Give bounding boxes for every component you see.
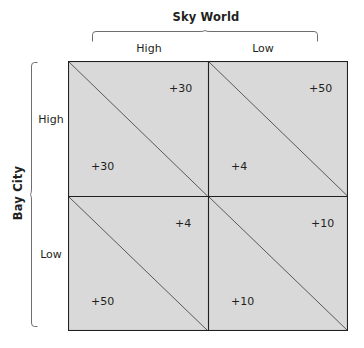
column-strategy-label-low: Low (206, 42, 320, 56)
row-strategy-label-high: High (36, 113, 66, 127)
column-player-title: Sky World (92, 10, 320, 24)
payoff-high-high-column: +30 (169, 82, 192, 95)
payoff-low-low-row: +10 (231, 295, 254, 308)
payoff-high-low-column: +50 (309, 82, 332, 95)
row-player-title: Bay City (11, 148, 25, 238)
payoff-low-low-column: +10 (311, 217, 334, 230)
row-brace (26, 58, 38, 334)
column-brace (88, 30, 322, 42)
payoff-low-high-column: +4 (175, 217, 191, 230)
payoff-matrix-figure: Sky World High Low Bay City High Low +30 (0, 0, 364, 348)
payoff-high-low-row: +4 (231, 160, 247, 173)
row-strategy-label-low: Low (36, 248, 66, 262)
matrix-body: +30 +30 +50 +4 +4 +50 +10 +10 (68, 61, 348, 331)
column-strategy-label-high: High (92, 42, 206, 56)
payoff-low-high-row: +50 (91, 295, 114, 308)
payoff-high-high-row: +30 (91, 160, 114, 173)
